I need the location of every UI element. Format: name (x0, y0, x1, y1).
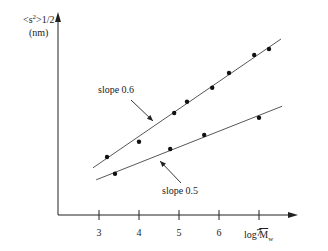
x-axis-arrow-icon (288, 212, 298, 218)
y-axis-label: <s2>1/2 (nm) (23, 14, 54, 38)
x-label-main: M (259, 229, 268, 240)
data-point (168, 147, 172, 151)
x-tick-label: 4 (137, 227, 142, 238)
x-label-prefix: log (244, 229, 259, 240)
x-axis-label: log Mw (244, 230, 273, 243)
data-point (137, 140, 141, 144)
x-tick-label: 5 (177, 227, 182, 238)
chart: <s2>1/2 (nm) 34567 log Mw slope 0.6 slop… (0, 0, 328, 251)
data-point (210, 86, 214, 90)
data-point (172, 111, 176, 115)
data-point (267, 47, 271, 51)
data-point (113, 172, 117, 176)
data-point (227, 71, 231, 75)
y-label-exp: >1/2 (36, 14, 54, 25)
data-point (252, 53, 256, 57)
y-axis-arrow-icon (55, 12, 61, 22)
data-point (105, 155, 109, 159)
x-tick-label: 3 (97, 227, 102, 238)
y-label-unit: (nm) (23, 28, 54, 38)
x-label-sub: w (268, 235, 273, 243)
annotation-slope-lower: slope 0.5 (162, 186, 198, 196)
data-point (202, 133, 206, 137)
data-point (185, 100, 189, 104)
fit-line (96, 106, 282, 180)
x-tick-label: 6 (217, 227, 222, 238)
annotation-slope-upper: slope 0.6 (98, 85, 134, 95)
y-label-text: <s (23, 14, 33, 25)
data-point (257, 116, 261, 120)
